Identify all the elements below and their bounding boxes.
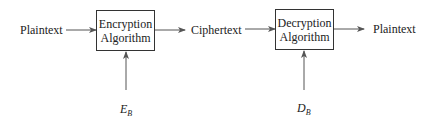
encryption-algorithm-box: Encryption Algorithm xyxy=(96,10,155,51)
encryption-box-line1: Encryption xyxy=(99,17,152,31)
encryption-key-label: EB xyxy=(120,102,132,118)
plaintext-output-label: Plaintext xyxy=(373,23,416,35)
decryption-box-line1: Decryption xyxy=(278,16,332,30)
decryption-box-line2: Algorithm xyxy=(280,30,330,44)
encryption-box-line2: Algorithm xyxy=(101,31,151,45)
plaintext-input-label: Plaintext xyxy=(20,24,63,36)
decryption-key-label: DB xyxy=(297,101,311,117)
connector-arrows xyxy=(0,0,432,122)
ciphertext-label: Ciphertext xyxy=(191,24,242,36)
decryption-algorithm-box: Decryption Algorithm xyxy=(275,9,334,50)
